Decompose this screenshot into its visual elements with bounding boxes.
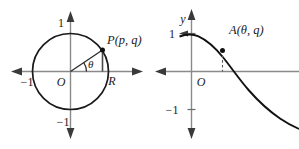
- y-axis-arrow-down-icon: [188, 128, 196, 139]
- label-point-A: A(θ, q): [228, 23, 264, 37]
- label-origin: O: [197, 75, 206, 89]
- label-y-bottom: −1: [166, 103, 179, 117]
- label-y-top: 1: [169, 27, 175, 41]
- y-axis: [188, 9, 196, 139]
- unit-circle-diagram: 1 −1 −1 O P(p, q) θ R: [0, 0, 150, 149]
- point-P-marker: [100, 48, 105, 53]
- x-axis-arrow-right-icon: [132, 68, 143, 76]
- label-angle-theta: θ: [88, 58, 94, 70]
- label-y-axis: y: [179, 12, 186, 26]
- y-axis-arrow-up-icon: [188, 9, 196, 20]
- label-point-P: P(p, q): [106, 33, 142, 47]
- label-y-top: 1: [58, 16, 64, 30]
- point-A-marker: [220, 48, 225, 53]
- label-x-left: −1: [21, 75, 34, 89]
- cosine-graph-diagram: y 1 −1 O A(θ, q): [150, 0, 299, 149]
- label-y-bottom: −1: [57, 115, 70, 129]
- label-x-intersection-R: R: [107, 74, 116, 88]
- angle-arc-theta: [84, 63, 87, 72]
- y-axis-arrow-up-icon: [67, 11, 75, 22]
- x-axis-arrow-left-icon: [155, 68, 166, 76]
- figure-root: 1 −1 −1 O P(p, q) θ R y: [0, 0, 299, 149]
- label-origin: O: [57, 75, 66, 89]
- x-axis: [155, 68, 299, 76]
- y-axis-arrow-down-icon: [67, 128, 75, 139]
